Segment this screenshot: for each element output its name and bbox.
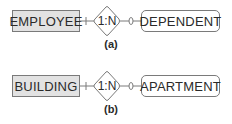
entity-employee: EMPLOYEE [12, 10, 80, 32]
er-diagram-a: EMPLOYEE 1:N DEPENDENT (a) [0, 0, 232, 62]
cardinality-label: 1:N [92, 14, 122, 28]
entity-label: BUILDING [14, 79, 77, 94]
entity-label: DEPENDENT [140, 14, 222, 29]
optional-circle-icon [129, 18, 133, 25]
caption-a: (a) [100, 38, 122, 50]
entity-label: APARTMENT [140, 79, 221, 94]
entity-apartment: APARTMENT [141, 75, 220, 97]
entity-label: EMPLOYEE [9, 14, 82, 29]
caption-b: (b) [100, 103, 122, 115]
entity-building: BUILDING [12, 75, 80, 97]
cardinality-label: 1:N [92, 79, 122, 93]
entity-dependent: DEPENDENT [141, 10, 220, 32]
optional-circle-icon [129, 83, 133, 90]
er-diagram-b: BUILDING 1:N APARTMENT (b) [0, 65, 232, 124]
